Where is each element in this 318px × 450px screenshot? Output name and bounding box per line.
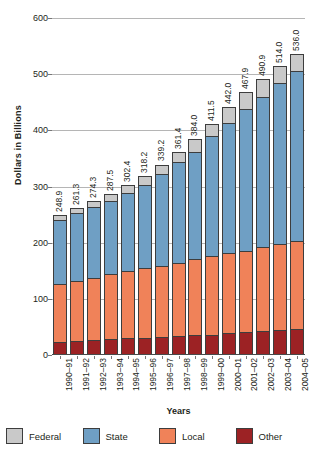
- bar-value-label: 514.0: [274, 42, 284, 63]
- stacked-bar-chart: Dollars in Billions 0100200300400500600 …: [0, 0, 318, 450]
- x-tick-label: 1995–96: [148, 358, 158, 391]
- bar-segment-state[interactable]: [188, 152, 202, 259]
- y-axis-title: Dollars in Billions: [13, 80, 23, 210]
- bar-segment-federal[interactable]: [290, 54, 304, 71]
- x-tick-mark: [128, 356, 129, 359]
- bar-segment-federal[interactable]: [104, 194, 118, 202]
- bar-segment-other[interactable]: [239, 332, 253, 355]
- bar-segment-other[interactable]: [53, 342, 67, 355]
- bar-segment-local[interactable]: [172, 263, 186, 337]
- bar-segment-other[interactable]: [87, 340, 101, 355]
- bar[interactable]: 274.3: [87, 201, 101, 355]
- x-tick-mark: [111, 356, 112, 359]
- bar-segment-state[interactable]: [205, 136, 219, 256]
- bar-segment-state[interactable]: [104, 201, 118, 274]
- x-tick-mark: [179, 356, 180, 359]
- bar-segment-state[interactable]: [70, 213, 84, 281]
- bar-segment-local[interactable]: [138, 268, 152, 338]
- bar-series-group: 248.9261.3274.3287.5302.4318.2339.2361.4…: [52, 18, 305, 355]
- bar-segment-federal[interactable]: [222, 107, 236, 123]
- bar-segment-state[interactable]: [155, 174, 169, 266]
- bar-segment-state[interactable]: [222, 123, 236, 254]
- bar-segment-other[interactable]: [188, 335, 202, 355]
- x-tick-label: 2003–04: [283, 358, 293, 391]
- bar-segment-federal[interactable]: [172, 152, 186, 162]
- bar[interactable]: 339.2: [155, 165, 169, 356]
- bar[interactable]: 248.9: [53, 215, 67, 355]
- bar-segment-local[interactable]: [273, 244, 287, 331]
- x-tick-mark: [297, 356, 298, 359]
- bar-segment-local[interactable]: [188, 259, 202, 335]
- bar-segment-federal[interactable]: [188, 139, 202, 152]
- x-tick-mark: [246, 356, 247, 359]
- bar-segment-other[interactable]: [290, 329, 304, 355]
- bar-segment-local[interactable]: [205, 256, 219, 335]
- bar-segment-state[interactable]: [273, 83, 287, 244]
- bar-segment-local[interactable]: [104, 274, 118, 339]
- bar[interactable]: 467.9: [239, 92, 253, 355]
- bar-segment-state[interactable]: [138, 185, 152, 268]
- bar[interactable]: 514.0: [273, 66, 287, 355]
- bar-segment-federal[interactable]: [138, 176, 152, 185]
- bar-segment-other[interactable]: [121, 338, 135, 355]
- bar-segment-state[interactable]: [121, 193, 135, 271]
- x-tick-label: 1992–93: [98, 358, 108, 391]
- bar[interactable]: 261.3: [70, 208, 84, 355]
- bar-segment-local[interactable]: [256, 247, 270, 331]
- bar[interactable]: 318.2: [138, 176, 152, 355]
- bar[interactable]: 302.4: [121, 185, 135, 355]
- bar-segment-other[interactable]: [172, 336, 186, 355]
- x-tick-label: 1998–99: [199, 358, 209, 391]
- x-tick-label: 2004–05: [300, 358, 310, 391]
- bar-segment-other[interactable]: [273, 330, 287, 355]
- bar-segment-state[interactable]: [53, 220, 67, 283]
- bar[interactable]: 384.0: [188, 139, 202, 355]
- bar-segment-federal[interactable]: [256, 79, 270, 96]
- legend-item-other[interactable]: Other: [236, 428, 313, 444]
- y-tick-label: 400: [24, 125, 48, 135]
- legend-item-state[interactable]: State: [83, 428, 160, 444]
- x-axis-title: Years: [52, 406, 305, 416]
- bar-segment-state[interactable]: [87, 207, 101, 278]
- bar-segment-local[interactable]: [155, 266, 169, 337]
- bar-segment-federal[interactable]: [239, 92, 253, 109]
- bar-segment-other[interactable]: [104, 339, 118, 355]
- bar-segment-local[interactable]: [290, 241, 304, 330]
- bar-segment-other[interactable]: [205, 335, 219, 356]
- bar-segment-state[interactable]: [290, 71, 304, 241]
- legend-swatch-other: [236, 428, 253, 444]
- bar-segment-state[interactable]: [172, 162, 186, 262]
- bar-segment-federal[interactable]: [155, 165, 169, 175]
- legend-item-federal[interactable]: Federal: [6, 428, 83, 444]
- bar-segment-local[interactable]: [70, 281, 84, 341]
- bar-segment-other[interactable]: [155, 337, 169, 355]
- bar-segment-other[interactable]: [70, 341, 84, 355]
- y-tick-label: 100: [24, 294, 48, 304]
- legend-item-local[interactable]: Local: [159, 428, 236, 444]
- x-axis-tick-labels: 1990–911991–921992–931993–941994–951995–…: [52, 356, 305, 404]
- bar[interactable]: 411.5: [205, 124, 219, 355]
- bar-segment-state[interactable]: [239, 109, 253, 251]
- bar-segment-other[interactable]: [256, 331, 270, 355]
- bar[interactable]: 442.0: [222, 107, 236, 355]
- bar-segment-state[interactable]: [256, 97, 270, 248]
- bar[interactable]: 287.5: [104, 194, 118, 355]
- bar-segment-federal[interactable]: [273, 66, 287, 82]
- x-tick-label: 2000–01: [233, 358, 243, 391]
- bar-segment-local[interactable]: [53, 284, 67, 342]
- bar-segment-other[interactable]: [138, 338, 152, 355]
- bar-segment-local[interactable]: [87, 278, 101, 340]
- bar[interactable]: 361.4: [172, 152, 186, 355]
- bar-segment-other[interactable]: [222, 333, 236, 355]
- bar-value-label: 467.9: [240, 68, 250, 89]
- bar-segment-local[interactable]: [222, 253, 236, 333]
- x-tick-mark: [263, 356, 264, 359]
- bar[interactable]: 536.0: [290, 54, 304, 355]
- bar-segment-local[interactable]: [239, 251, 253, 333]
- x-tick-mark: [162, 356, 163, 359]
- bar-segment-federal[interactable]: [121, 185, 135, 193]
- bar[interactable]: 490.9: [256, 79, 270, 355]
- bar-segment-federal[interactable]: [205, 124, 219, 136]
- x-tick-mark: [145, 356, 146, 359]
- bar-segment-local[interactable]: [121, 271, 135, 338]
